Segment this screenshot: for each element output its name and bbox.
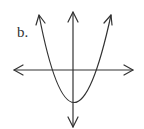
parabola-right-arrow-icon: [104, 15, 112, 25]
parabola-curve: [36, 15, 112, 103]
graph-figure: b.: [0, 0, 144, 129]
figure-label: b.: [17, 24, 28, 41]
graph-svg: [0, 0, 144, 129]
